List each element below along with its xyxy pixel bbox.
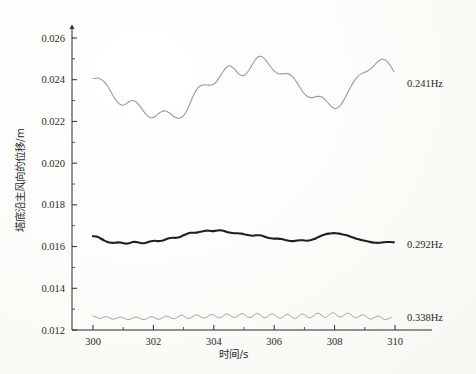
x-tick-label: 306 [266,336,282,347]
series-group [93,56,394,319]
figure-canvas: 0.0120.0140.0160.0180.0200.0220.0240.026… [0,0,476,374]
series-line-0.292Hz [93,230,394,243]
x-tick-label: 304 [206,336,223,347]
y-tick-label: 0.026 [41,33,65,44]
y-tick-label: 0.022 [41,116,65,127]
tick-group [72,38,395,330]
y-tick-label: 0.014 [41,283,65,294]
x-tick-label: 300 [85,336,101,347]
series-label-0.292Hz: 0.292Hz [407,239,443,250]
series-label-group: 0.241Hz0.292Hz0.338Hz [407,78,443,323]
y-tick-label: 0.024 [41,74,65,85]
series-label-0.241Hz: 0.241Hz [407,78,443,89]
x-tick-label: 310 [387,336,403,347]
series-label-0.338Hz: 0.338Hz [407,312,443,323]
line-chart: 0.0120.0140.0160.0180.0200.0220.0240.026… [0,0,476,374]
series-line-0.241Hz [93,56,394,118]
y-tick-label: 0.020 [41,158,65,169]
y-tick-label: 0.018 [41,199,65,210]
y-tick-label: 0.012 [41,325,65,336]
y-tick-label: 0.016 [41,241,65,252]
tick-label-group: 0.0120.0140.0160.0180.0200.0220.0240.026… [41,33,403,347]
x-tick-label: 302 [146,336,162,347]
axes-group [72,28,432,330]
y-axis-title: 塔底沿主风向的位移/m [14,128,26,232]
series-line-0.338Hz [93,313,392,320]
x-tick-label: 308 [327,336,343,347]
x-axis-title: 时间/s [219,348,248,360]
